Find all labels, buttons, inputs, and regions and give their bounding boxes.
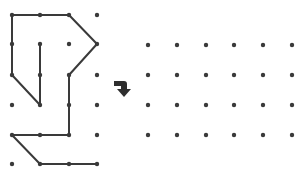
- right-grid-dot: [146, 73, 150, 77]
- shape-segment: [69, 44, 97, 75]
- left-grid-dot: [38, 42, 42, 46]
- left-grid-dot: [95, 162, 99, 166]
- right-grid-dot: [146, 133, 150, 137]
- right-grid-dot: [261, 43, 265, 47]
- right-grid-dot: [290, 73, 294, 77]
- shape-segment: [69, 15, 97, 44]
- left-grid-dot: [10, 73, 14, 77]
- right-grid-dot: [204, 133, 208, 137]
- right-grid-dot: [146, 43, 150, 47]
- left-grid-dot: [38, 73, 42, 77]
- right-grid-dot: [146, 103, 150, 107]
- right-grid-dot: [175, 73, 179, 77]
- right-grid-dot: [175, 43, 179, 47]
- right-grid-dot: [232, 73, 236, 77]
- left-grid-dot: [38, 162, 42, 166]
- right-grid-dot: [261, 73, 265, 77]
- right-grid-dot: [232, 103, 236, 107]
- shape-segment: [12, 75, 40, 105]
- left-dot-grid: [10, 13, 99, 166]
- right-grid-dot: [175, 103, 179, 107]
- right-grid-dot: [290, 103, 294, 107]
- left-grid-dot: [67, 103, 71, 107]
- puzzle-canvas: [0, 0, 306, 174]
- right-grid-dot: [261, 133, 265, 137]
- left-grid-dot: [10, 13, 14, 17]
- right-grid-dot: [204, 103, 208, 107]
- right-grid-dot: [261, 103, 265, 107]
- right-grid-dot: [175, 133, 179, 137]
- right-grid-dot: [204, 73, 208, 77]
- turn-right-down-arrow-icon: [114, 81, 131, 97]
- right-grid-dot: [290, 133, 294, 137]
- left-grid-dot: [10, 103, 14, 107]
- left-grid-dot: [67, 42, 71, 46]
- shape-segment: [12, 135, 40, 164]
- left-grid-dot: [10, 133, 14, 137]
- left-grid-dot: [67, 162, 71, 166]
- left-grid-dot: [95, 13, 99, 17]
- shape-outline: [12, 15, 97, 164]
- left-grid-dot: [95, 103, 99, 107]
- left-grid-dot: [67, 73, 71, 77]
- right-grid-dot: [290, 43, 294, 47]
- right-grid-dot: [232, 133, 236, 137]
- left-grid-dot: [10, 42, 14, 46]
- left-grid-dot: [38, 103, 42, 107]
- right-grid-dot: [204, 43, 208, 47]
- right-dot-grid: [146, 43, 294, 137]
- left-grid-dot: [10, 162, 14, 166]
- left-grid-dot: [95, 133, 99, 137]
- left-grid-dot: [38, 13, 42, 17]
- left-grid-dot: [67, 133, 71, 137]
- right-grid-dot: [232, 43, 236, 47]
- left-grid-dot: [67, 13, 71, 17]
- left-grid-dot: [95, 42, 99, 46]
- left-grid-dot: [95, 73, 99, 77]
- left-grid-dot: [38, 133, 42, 137]
